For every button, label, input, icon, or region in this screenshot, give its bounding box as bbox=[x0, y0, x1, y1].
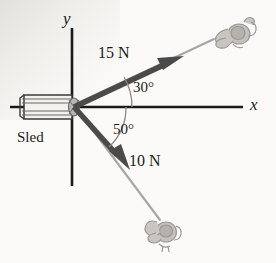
hand-grip-upper bbox=[216, 18, 257, 49]
force-diagram-figure: y x 15 N 30° 50° 10 N Sled bbox=[0, 0, 276, 263]
x-axis-label: x bbox=[250, 96, 258, 113]
force-label-15n: 15 N bbox=[98, 45, 130, 61]
force-label-10n: 10 N bbox=[129, 153, 161, 169]
hand-grip-lower bbox=[145, 221, 181, 252]
angle-label-30: 30° bbox=[133, 80, 154, 95]
sled-body bbox=[20, 95, 74, 119]
sled-label: Sled bbox=[17, 130, 44, 145]
angle-label-50: 50° bbox=[113, 122, 134, 137]
y-axis-label: y bbox=[63, 10, 71, 27]
